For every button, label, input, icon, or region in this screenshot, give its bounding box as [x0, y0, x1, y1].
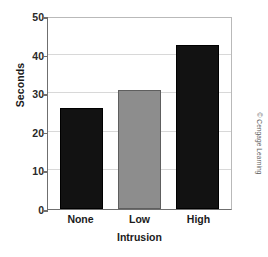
x-axis-tick-labels: NoneLowHigh: [47, 212, 232, 228]
plot-area: [47, 17, 232, 210]
y-axis-tick-label: 40: [22, 50, 44, 62]
y-axis-tick-mark: [43, 94, 48, 96]
bar-high: [176, 45, 219, 209]
bar-low: [118, 90, 161, 209]
credit-text: © Cengage Learning: [256, 89, 263, 199]
bar-slot: [52, 18, 110, 209]
x-axis-tick-label: High: [169, 212, 227, 228]
bar-slot: [169, 18, 227, 209]
y-axis-tick-label: 0: [22, 204, 44, 216]
x-axis-tick-label: None: [51, 212, 109, 228]
y-axis-tick-labels: 01020304050: [20, 0, 44, 257]
y-axis-tick-mark: [43, 56, 48, 58]
y-axis-tick-mark: [43, 133, 48, 135]
y-axis-tick-label: 20: [22, 127, 44, 139]
y-axis-tick-label: 10: [22, 165, 44, 177]
bar-series: [48, 18, 231, 209]
y-axis-tick-mark: [43, 210, 48, 212]
bar-slot: [111, 18, 169, 209]
y-axis-tick-label: 30: [22, 88, 44, 100]
x-axis-tick-label: Low: [110, 212, 168, 228]
bar-chart-figure: Seconds 01020304050 NoneLowHigh Intrusio…: [0, 0, 268, 257]
y-axis-tick-label: 50: [22, 11, 44, 23]
bar-none: [60, 108, 103, 209]
y-axis-tick-mark: [43, 17, 48, 19]
y-axis-tick-mark: [43, 171, 48, 173]
x-axis-title: Intrusion: [47, 231, 232, 243]
